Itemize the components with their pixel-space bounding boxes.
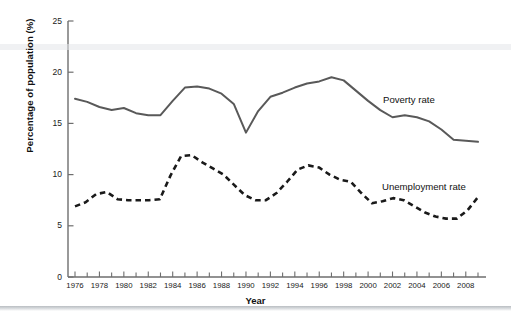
y-tick-label: 20 xyxy=(40,67,62,77)
axes xyxy=(68,21,486,277)
series-label-poverty-rate: Poverty rate xyxy=(383,94,435,105)
y-tick-label: 0 xyxy=(40,272,62,282)
plot-canvas xyxy=(0,0,511,329)
y-tick-label: 5 xyxy=(40,220,62,230)
x-axis-ticks xyxy=(75,272,478,278)
x-tick-label: 2008 xyxy=(451,281,481,290)
y-tick-label: 15 xyxy=(40,118,62,128)
y-tick-label: 10 xyxy=(40,169,62,179)
y-axis-title: Percentage of population (%) xyxy=(24,0,35,181)
chart-figure: Percentage of population (%) Year 051015… xyxy=(0,0,511,329)
series-line-poverty-rate xyxy=(75,77,478,142)
y-tick-label: 25 xyxy=(40,16,62,26)
x-axis-title: Year xyxy=(0,295,511,306)
y-axis-ticks xyxy=(68,21,74,277)
series-label-unemployment-rate: Unemployment rate xyxy=(382,181,466,192)
